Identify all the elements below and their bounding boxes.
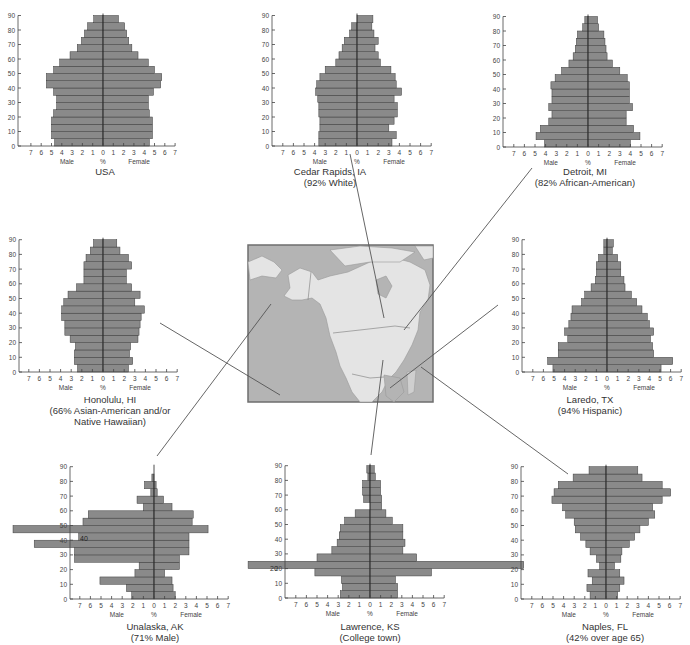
female-bar [154, 496, 164, 503]
y-tick-label: 60 [511, 507, 519, 514]
female-bar [103, 269, 126, 276]
north-america-map [248, 245, 433, 402]
percent-label: % [100, 158, 106, 165]
x-tick-label: 2 [583, 602, 587, 609]
y-tick-label: 10 [493, 129, 501, 136]
y-tick-label: 20 [493, 115, 501, 122]
x-tick-label: 7 [78, 602, 82, 609]
x-tick-label: 4 [411, 601, 415, 608]
male-bar [562, 67, 589, 74]
female-bar [103, 240, 117, 247]
male-bar [552, 96, 588, 103]
female-bar [103, 335, 138, 342]
x-tick-label: 2 [389, 601, 393, 608]
male-bar [342, 45, 357, 52]
y-tick-label: 20 [9, 339, 17, 346]
male-bar [367, 466, 370, 473]
male-bar [340, 591, 370, 598]
x-tick-label: 5 [153, 149, 157, 156]
male-bar [573, 53, 588, 60]
female-bar [103, 117, 152, 124]
y-tick-label: 60 [8, 56, 16, 63]
x-tick-label: 1 [595, 375, 599, 382]
male-bar [84, 262, 103, 269]
x-tick-label: 7 [660, 150, 664, 157]
x-tick-label: 2 [584, 375, 588, 382]
female-bar [606, 511, 655, 518]
male-bar [340, 525, 370, 532]
x-tick-label: 2 [626, 375, 630, 382]
y-tick-label: 10 [512, 354, 520, 361]
y-tick-label: 60 [493, 57, 501, 64]
male-bar [587, 584, 606, 591]
x-tick-label: 1 [594, 602, 598, 609]
female-bar [606, 562, 614, 569]
male-bar [590, 592, 606, 599]
x-tick-label: 3 [637, 375, 641, 382]
y-tick-label: 0 [278, 595, 282, 602]
y-tick-label: 90 [8, 12, 16, 19]
x-tick-label: 2 [376, 149, 380, 156]
female-bar [588, 24, 599, 31]
caption-title: Lawrence, KS [295, 621, 445, 632]
male-bar [572, 306, 607, 313]
male-bar [589, 467, 606, 474]
male-bar [65, 328, 103, 335]
female-bar [607, 291, 631, 298]
male-bar [342, 583, 370, 590]
male-bar [540, 125, 588, 132]
x-tick-label: 7 [29, 149, 33, 156]
y-tick-label: 50 [8, 70, 16, 77]
population-pyramid-lawrence: 0102030405060708090765432101234567Male%F… [248, 462, 524, 617]
male-bar [77, 284, 104, 291]
female-bar [370, 554, 417, 561]
female-bar [103, 81, 161, 88]
x-tick-label: 3 [132, 149, 136, 156]
female-bar [588, 75, 627, 82]
x-tick-label: 5 [154, 375, 158, 382]
female-bar [103, 66, 155, 73]
female-bar [370, 583, 398, 590]
y-tick-label: 60 [9, 280, 17, 287]
male-bar [551, 82, 588, 89]
x-tick-label: 1 [91, 375, 95, 382]
male-bar [90, 247, 103, 254]
x-tick-label: 5 [315, 601, 319, 608]
percent-label: % [354, 158, 360, 165]
male-bar [341, 576, 370, 583]
x-tick-label: 4 [562, 602, 566, 609]
female-bar [588, 111, 626, 118]
male-bar [604, 240, 607, 247]
female-bar [357, 117, 394, 124]
female-bar [357, 59, 380, 66]
female-bar [103, 313, 141, 320]
male-label: Male [60, 158, 74, 165]
female-bar [606, 592, 618, 599]
female-bar [588, 96, 629, 103]
x-tick-label: 4 [326, 601, 330, 608]
male-bar [569, 60, 588, 67]
female-bar [588, 46, 606, 53]
percent-label: % [367, 610, 373, 617]
male-bar [339, 52, 357, 59]
female-bar [370, 561, 524, 568]
male-bar [571, 313, 607, 320]
female-bar [588, 133, 640, 140]
male-bar [93, 240, 103, 247]
female-bar [370, 488, 381, 495]
y-tick-label: 60 [262, 56, 270, 63]
x-tick-label: 6 [523, 150, 527, 157]
y-tick-label: 20 [60, 566, 68, 573]
female-bar [588, 38, 605, 45]
male-bar [60, 59, 103, 66]
male-bar [139, 562, 154, 569]
y-tick-label: 10 [262, 128, 270, 135]
female-bar [370, 495, 382, 502]
x-tick-label: 6 [668, 602, 672, 609]
x-tick-label: 6 [89, 602, 93, 609]
male-bar [582, 299, 607, 306]
y-tick-label: 80 [8, 27, 16, 34]
female-bar [370, 480, 381, 487]
male-bar [552, 496, 606, 503]
x-tick-label: 7 [281, 149, 285, 156]
